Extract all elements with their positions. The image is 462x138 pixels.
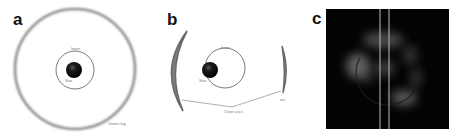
orbit-label: Inner	[71, 46, 81, 51]
star-ball	[66, 62, 82, 78]
right-arc-label: arc	[280, 97, 286, 102]
star-label: Star	[199, 78, 207, 83]
panel-b: b Inner Star Outer arcs arc	[150, 0, 300, 138]
panel-c: c	[300, 0, 462, 138]
pointer-lines	[182, 91, 281, 107]
panel-a-diagram: Inner Star Outer ring	[0, 0, 160, 138]
panel-c-image	[300, 0, 462, 138]
panel-b-diagram: Inner Star Outer arcs arc	[150, 0, 300, 138]
ring-label: Outer ring	[108, 121, 126, 126]
orbit-label: Inner	[221, 45, 231, 50]
right-arc	[282, 46, 286, 93]
star-ball	[202, 62, 218, 78]
panel-a: a Inner Star Outer ring	[0, 0, 160, 138]
star-label: Star	[65, 78, 73, 83]
arcs-label: Outer arcs	[224, 109, 243, 114]
left-arc	[171, 31, 187, 111]
